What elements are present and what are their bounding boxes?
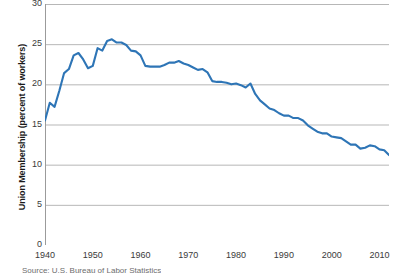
x-tick-label: 2000	[312, 250, 352, 260]
x-tick-label: 1990	[264, 250, 304, 260]
x-tick-label: 1950	[73, 250, 113, 260]
x-tick-label: 1960	[121, 250, 161, 260]
x-tick-label: 2010	[359, 250, 397, 260]
x-axis-tick-labels: 19401950196019701980199020002010	[0, 0, 397, 274]
x-tick-label: 1970	[168, 250, 208, 260]
union-membership-chart: Union Membership (percent of workers) 30…	[0, 0, 397, 274]
x-tick-label: 1980	[216, 250, 256, 260]
source-caption: Source: U.S. Bureau of Labor Statistics	[22, 266, 161, 274]
x-tick-label: 1940	[25, 250, 65, 260]
